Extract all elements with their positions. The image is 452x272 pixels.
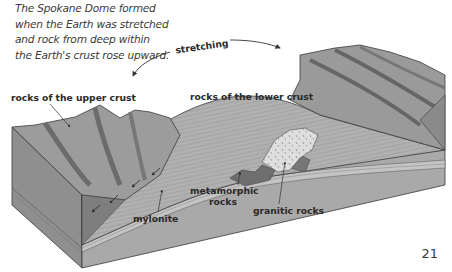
stretching-arrow-left [133, 52, 170, 76]
label-mylonite: mylonite [133, 213, 178, 224]
page-number: 21 [421, 246, 438, 261]
stretching-arrow-right [230, 40, 280, 48]
label-lower-crust: rocks of the lower crust [190, 91, 314, 102]
label-metamorphic: metamorphic [190, 185, 259, 196]
label-granitic: granitic rocks [253, 205, 325, 216]
spokane-dome-block-diagram: stretching rocks of the upper crust rock… [0, 0, 452, 272]
label-upper-crust: rocks of the upper crust [11, 92, 137, 103]
stretching-label: stretching [175, 37, 229, 55]
label-metamorphic-rocks: rocks [209, 196, 237, 207]
